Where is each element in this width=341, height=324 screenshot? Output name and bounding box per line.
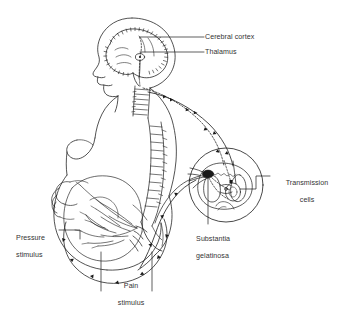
label-substantia-gelatinosa: Substantia gelatinosa <box>188 226 230 269</box>
leader-transmission-cells <box>240 176 270 189</box>
pain-pathway-arrowheads <box>163 95 220 153</box>
pressure-ascending-pathway <box>148 92 233 166</box>
hand-on-abdomen <box>52 181 88 220</box>
diagram-artwork <box>0 0 341 324</box>
label-transmission-cells: Transmission cells <box>272 170 334 213</box>
label-transmission-cells-line2: cells <box>300 196 314 204</box>
cortical-projection <box>139 36 141 86</box>
leader-pressure-stimulus <box>59 230 80 239</box>
transmission-cells-marker <box>226 183 241 201</box>
leader-lines <box>59 37 271 291</box>
label-pain-line1: Pain <box>124 282 138 290</box>
label-pressure-stimulus: Pressure stimulus <box>8 225 45 268</box>
cervical-spine <box>132 86 150 118</box>
pain-pathway-diagram: Cerebral cortex Thalamus Transmission ce… <box>0 0 341 324</box>
abdominal-nerve-branches <box>75 182 147 251</box>
label-pressure-line2: stimulus <box>16 251 42 259</box>
label-substantia-line2: gelatinosa <box>196 252 229 260</box>
label-transmission-cells-line1: Transmission <box>286 179 329 187</box>
label-pressure-line1: Pressure <box>16 234 45 242</box>
label-pain-line2: stimulus <box>118 299 144 307</box>
spinal-cord-inset <box>188 148 263 222</box>
label-thalamus: Thalamus <box>205 48 237 57</box>
label-pain-stimulus: Pain stimulus <box>103 273 151 316</box>
label-cerebral-cortex: Cerebral cortex <box>205 33 254 42</box>
body-outline <box>54 88 176 270</box>
brain-outline <box>104 28 168 86</box>
label-substantia-line1: Substantia <box>196 235 230 243</box>
lumbar-spine <box>133 118 167 251</box>
